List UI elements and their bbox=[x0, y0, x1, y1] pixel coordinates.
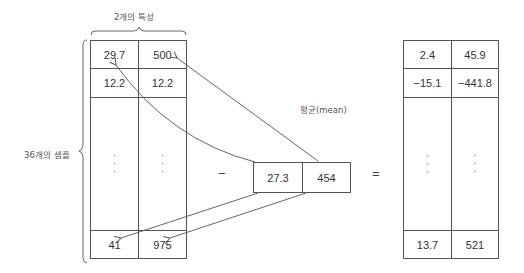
samples-brace-icon bbox=[79, 40, 87, 263]
arrow-mean2-to-row1 bbox=[177, 58, 318, 161]
arrow-mean1-to-row1 bbox=[116, 65, 255, 162]
diagram-connectors bbox=[0, 0, 524, 273]
features-brace-icon bbox=[91, 27, 186, 35]
